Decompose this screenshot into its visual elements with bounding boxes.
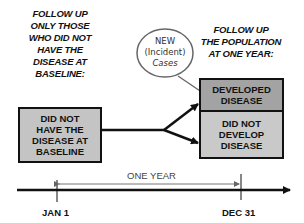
baseline-box: DID NOT HAVE THE DISEASE AT BASELINE <box>18 107 102 163</box>
caption-line: BASELINE: <box>8 68 112 80</box>
caption-line: THE POPULATION <box>193 36 289 48</box>
dec31-label: DEC 31 <box>222 207 255 218</box>
box-line: DEVELOP <box>219 129 264 140</box>
box-line: DISEASE <box>212 95 271 106</box>
did-not-develop-box: DID NOT DEVELOP DISEASE <box>199 110 284 159</box>
box-line: DID NOT <box>219 118 264 129</box>
left-caption: FOLLOW UP ONLY THOSE WHO DID NOT HAVE TH… <box>8 8 112 80</box>
jan1-label: JAN 1 <box>42 207 69 218</box>
arrow-to-not-developed <box>164 130 198 143</box>
incident-oval-label: NEW (Incident) Cases <box>137 36 193 69</box>
caption-line: FOLLOW UP <box>8 8 112 20</box>
right-caption: FOLLOW UP THE POPULATION AT ONE YEAR: <box>193 24 289 60</box>
caption-line: HAVE THE <box>8 44 112 56</box>
developed-disease-box: DEVELOPED DISEASE <box>199 78 284 112</box>
caption-line: FOLLOW UP <box>193 24 289 36</box>
oval-line: NEW <box>137 36 193 47</box>
oval-line: (Incident) <box>137 47 193 58</box>
caption-line: AT ONE YEAR: <box>193 48 289 60</box>
caption-line: WHO DID NOT <box>8 32 112 44</box>
box-line: DID NOT <box>32 113 88 124</box>
box-line: DISEASE <box>219 140 264 151</box>
caption-line: DISEASE AT <box>8 56 112 68</box>
box-line: DISEASE AT <box>32 135 88 146</box>
arrow-to-developed <box>164 104 198 130</box>
caption-line: ONLY THOSE <box>8 20 112 32</box>
box-line: HAVE THE <box>32 124 88 135</box>
box-line: BASELINE <box>32 146 88 157</box>
oval-line: Cases <box>137 58 193 69</box>
box-line: DEVELOPED <box>212 84 271 95</box>
one-year-label: ONE YEAR <box>127 170 176 181</box>
